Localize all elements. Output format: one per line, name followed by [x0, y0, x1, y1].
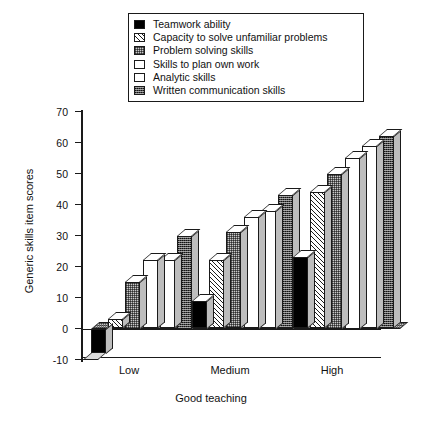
- bar-side-face: [377, 140, 384, 329]
- bar-side-face: [158, 254, 165, 328]
- y-tick-label: 40: [42, 200, 68, 210]
- y-tick-mark: [75, 266, 81, 267]
- x-axis-line: [81, 357, 381, 358]
- bar-side-face: [140, 276, 147, 328]
- bar-side-face: [276, 205, 283, 329]
- bar-side-face: [224, 254, 231, 328]
- x-axis-title: Good teaching: [0, 392, 422, 404]
- y-tick-label: 60: [42, 138, 68, 148]
- zero-baseline: [81, 329, 381, 330]
- x-tick-label-medium: Medium: [195, 364, 265, 376]
- y-tick-label: -10: [42, 355, 68, 365]
- y-tick-label: 20: [42, 262, 68, 272]
- y-tick-mark: [75, 173, 81, 174]
- y-tick-label: 70: [42, 107, 68, 117]
- chart-root: Teamwork ability Capacity to solve unfam…: [0, 0, 422, 421]
- bar-front-face: [192, 301, 207, 329]
- bar-side-face: [394, 130, 401, 328]
- y-tick-mark: [75, 297, 81, 298]
- bar-side-face: [106, 323, 113, 354]
- bar-front-face: [293, 257, 308, 328]
- y-tick-label: 0: [42, 324, 68, 334]
- bar-medium-series-0: [192, 301, 207, 329]
- bar-low-series-0: [91, 329, 106, 354]
- y-tick-mark: [75, 204, 81, 205]
- bar-high-series-0: [293, 257, 308, 328]
- plot-area: 706050403020100-10 Generic skills item s…: [0, 0, 422, 421]
- y-tick-label: 30: [42, 231, 68, 241]
- y-tick-label: 50: [42, 169, 68, 179]
- bar-side-face: [325, 186, 332, 328]
- bar-side-face: [308, 251, 315, 328]
- y-axis-line: [81, 110, 83, 362]
- y-tick-mark: [75, 359, 81, 360]
- x-tick-label-high: High: [297, 364, 367, 376]
- bar-side-face: [175, 254, 182, 328]
- bar-side-face: [259, 211, 266, 328]
- y-axis-title: Generic skills item scores: [23, 124, 35, 339]
- x-tick-label-low: Low: [94, 364, 164, 376]
- y-tick-mark: [75, 142, 81, 143]
- bar-side-face: [342, 168, 349, 329]
- bar-side-face: [360, 152, 367, 328]
- bar-side-face: [241, 227, 248, 329]
- bar-front-face: [91, 329, 106, 354]
- y-tick-label: 10: [42, 293, 68, 303]
- y-tick-mark: [75, 111, 81, 112]
- y-tick-mark: [75, 235, 81, 236]
